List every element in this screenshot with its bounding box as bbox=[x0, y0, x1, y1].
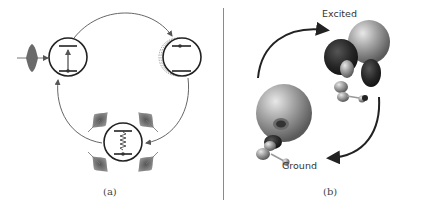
excited-orbital bbox=[324, 20, 390, 103]
cycle-arrow-left bbox=[58, 80, 102, 143]
ground-orbital bbox=[256, 84, 312, 166]
emission-node bbox=[104, 123, 142, 161]
incoming-pulse-icon bbox=[17, 44, 48, 72]
cycle-arrow-right bbox=[146, 78, 189, 143]
relax-arrow bbox=[330, 97, 379, 158]
orbital-diagram bbox=[226, 0, 421, 209]
caption-a: (a) bbox=[103, 186, 117, 197]
recoil-node bbox=[159, 38, 201, 76]
caption-b: (b) bbox=[323, 186, 337, 197]
panel-b: Excited Ground (b) bbox=[226, 0, 421, 209]
energy-cycle-diagram bbox=[0, 0, 222, 209]
panel-a: (a) bbox=[0, 0, 222, 209]
cycle-arrow-top bbox=[74, 13, 172, 38]
excited-label: Excited bbox=[322, 8, 357, 19]
panel-divider bbox=[223, 8, 224, 200]
ground-label: Ground bbox=[282, 160, 317, 171]
absorption-node bbox=[49, 38, 87, 76]
excite-arrow bbox=[258, 29, 326, 78]
